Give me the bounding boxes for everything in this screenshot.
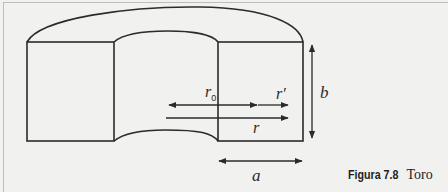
caption-title: Toro [406,167,432,182]
figure-caption: Figura 7.8Toro [348,168,433,182]
label-r0: r0 [205,84,216,103]
caption-label: Figura 7.8 [348,168,398,181]
inner-top-arc [114,31,218,42]
label-r: r [253,120,259,136]
label-a: a [252,167,261,184]
label-b: b [320,84,329,101]
label-r0-sub: 0 [211,93,216,103]
label-r-prime: r′ [276,86,286,102]
left-block [27,42,114,141]
right-block [218,42,303,141]
outer-top-arc [27,7,303,42]
inner-bottom-arc [114,130,218,141]
